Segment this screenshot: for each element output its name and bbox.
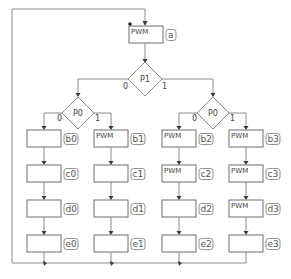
node-tag-d1: d1: [131, 204, 145, 215]
svg-text:c0: c0: [66, 169, 77, 179]
arrowhead-icon: [110, 261, 114, 266]
edge-label-p0l-0: 0: [57, 114, 62, 123]
edge-label-p0r-0: 0: [192, 114, 197, 123]
node-c0[interactable]: [27, 165, 61, 182]
svg-text:PWM: PWM: [231, 202, 248, 210]
column-2: PWM b2 PWM c2 d2 e2: [162, 130, 213, 266]
arrowhead-icon: [43, 261, 47, 266]
svg-text:PWM: PWM: [164, 167, 181, 175]
node-tag-b1: b1: [131, 134, 145, 145]
arrowhead-icon: [177, 196, 182, 200]
svg-text:e2: e2: [201, 239, 212, 249]
node-e1[interactable]: [94, 235, 128, 252]
decision-p0-left-text: P0: [73, 109, 83, 118]
node-b0[interactable]: [27, 130, 61, 147]
arrowhead-icon: [177, 161, 182, 165]
node-c1[interactable]: [94, 165, 128, 182]
svg-text:PWM: PWM: [164, 132, 181, 140]
arrowhead-icon: [177, 126, 182, 130]
svg-text:b3: b3: [268, 134, 279, 144]
node-d3[interactable]: PWM: [229, 200, 263, 217]
svg-text:PWM: PWM: [231, 167, 248, 175]
node-d0[interactable]: [27, 200, 61, 217]
node-d2[interactable]: [162, 200, 196, 217]
node-tag-b2: b2: [199, 134, 213, 145]
svg-text:b1: b1: [133, 134, 144, 144]
arrowhead-icon: [42, 161, 47, 165]
start-dot-icon: [128, 22, 132, 26]
flowchart-canvas: PWM a P1 0 1 P0 0 1 P0 0 1 b0: [0, 0, 291, 279]
node-a[interactable]: PWM: [129, 26, 163, 43]
node-tag-d3: d3: [266, 204, 280, 215]
node-tag-e3: e3: [266, 239, 280, 250]
arrowhead-icon: [109, 231, 114, 235]
node-tag-e2: e2: [199, 239, 213, 250]
decision-p0-right[interactable]: P0: [197, 97, 229, 129]
node-tag-b0: b0: [64, 134, 78, 145]
edge-label-p1-1: 1: [162, 82, 167, 91]
node-tag-d2: d2: [199, 204, 213, 215]
svg-text:PWM: PWM: [96, 132, 113, 140]
node-tag-b3: b3: [266, 134, 280, 145]
edge-label-p0l-1: 1: [95, 114, 100, 123]
arrowhead-icon: [244, 231, 249, 235]
node-tag-a: a: [166, 30, 176, 41]
node-b3[interactable]: PWM: [229, 130, 263, 147]
arrowhead-icon: [109, 161, 114, 165]
node-tag-c1: c1: [131, 169, 145, 180]
node-e0[interactable]: [27, 235, 61, 252]
arrowhead-icon: [109, 126, 114, 130]
arrowhead-icon: [244, 196, 249, 200]
svg-text:d0: d0: [66, 204, 78, 214]
svg-text:e0: e0: [66, 239, 78, 249]
arrowhead-icon: [109, 196, 114, 200]
arrowhead-icon: [42, 196, 47, 200]
node-a-text: PWM: [131, 28, 148, 36]
node-tag-c0: c0: [64, 169, 78, 180]
svg-text:d3: d3: [268, 204, 279, 214]
node-e2[interactable]: [162, 235, 196, 252]
svg-text:e1: e1: [133, 239, 144, 249]
edge-label-p0r-1: 1: [230, 114, 235, 123]
decision-p1-text: P1: [140, 75, 150, 84]
node-tag-e1: e1: [131, 239, 145, 250]
column-3: PWM b3 PWM c3 PWM d3 e3: [229, 130, 280, 252]
decision-p1[interactable]: P1: [128, 62, 162, 96]
svg-text:PWM: PWM: [231, 132, 248, 140]
svg-text:e3: e3: [268, 239, 279, 249]
node-b1[interactable]: PWM: [94, 130, 128, 147]
arrowhead-icon: [178, 261, 182, 266]
decision-p0-left[interactable]: P0: [62, 97, 94, 129]
svg-text:a: a: [168, 30, 174, 40]
node-tag-c3: c3: [266, 169, 280, 180]
edge-label-p1-0: 0: [123, 82, 128, 91]
column-1: PWM b1 c1 d1 e1: [94, 130, 145, 266]
svg-text:d1: d1: [133, 204, 144, 214]
svg-text:b2: b2: [201, 134, 212, 144]
node-e3[interactable]: [229, 235, 263, 252]
arrowhead-icon: [42, 231, 47, 235]
node-b2[interactable]: PWM: [162, 130, 196, 147]
svg-text:d2: d2: [201, 204, 212, 214]
arrowhead-icon: [42, 126, 47, 130]
svg-text:b0: b0: [66, 134, 78, 144]
node-c2[interactable]: PWM: [162, 165, 196, 182]
edge-p1-right: [162, 79, 213, 96]
decision-p0-right-text: P0: [208, 109, 218, 118]
arrowhead-icon: [244, 161, 249, 165]
arrowhead-icon: [177, 231, 182, 235]
node-c3[interactable]: PWM: [229, 165, 263, 182]
svg-text:c1: c1: [133, 169, 144, 179]
arrowhead-icon: [244, 126, 249, 130]
node-tag-c2: c2: [199, 169, 213, 180]
svg-text:c2: c2: [201, 169, 212, 179]
svg-text:c3: c3: [268, 169, 279, 179]
node-d1[interactable]: [94, 200, 128, 217]
arrowhead-icon: [143, 21, 148, 26]
node-tag-e0: e0: [64, 239, 78, 250]
edge-p1-left: [78, 79, 128, 96]
node-tag-d0: d0: [64, 204, 78, 215]
column-0: b0 c0 d0 e0: [27, 130, 78, 266]
